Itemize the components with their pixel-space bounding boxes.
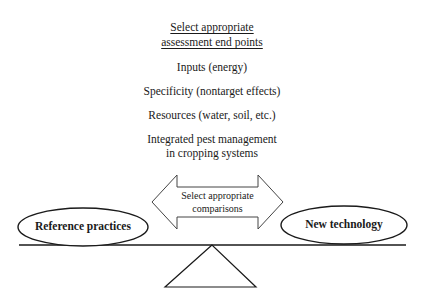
arrow-label-line-2: comparisons xyxy=(177,202,258,215)
fulcrum-triangle xyxy=(165,245,256,287)
new-technology-label: New technology xyxy=(281,218,407,230)
arrow-label: Select appropriate comparisons xyxy=(177,189,258,215)
reference-practices-label: Reference practices xyxy=(18,220,148,232)
balance-diagram xyxy=(0,0,424,300)
arrow-label-line-1: Select appropriate xyxy=(177,189,258,202)
